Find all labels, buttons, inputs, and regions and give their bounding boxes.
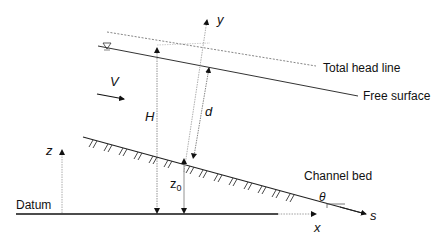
x-axis-label: x bbox=[314, 221, 321, 234]
total-head-arrow-bottom bbox=[154, 208, 160, 214]
total-head-label: H bbox=[145, 110, 154, 123]
channel-bed-label: Channel bed bbox=[304, 170, 372, 182]
y-axis-label: y bbox=[217, 13, 224, 26]
velocity-arrow bbox=[97, 94, 124, 99]
datum-label: Datum bbox=[16, 199, 51, 211]
bed-elevation-arrow-bottom bbox=[181, 208, 187, 214]
bed-elevation-label: z0 bbox=[170, 177, 182, 193]
velocity-label: V bbox=[110, 75, 119, 88]
free-surface-line bbox=[98, 46, 358, 96]
depth-label: d bbox=[205, 105, 212, 118]
channel-bed-hatching bbox=[89, 140, 294, 202]
free-surface-label: Free surface bbox=[363, 90, 430, 102]
diagram-canvas: Total head line Free surface Channel bed… bbox=[0, 0, 441, 235]
depth-arrow-bottom bbox=[191, 153, 197, 159]
z-axis-label: z bbox=[46, 144, 53, 157]
water-surface-icon bbox=[103, 43, 111, 50]
total-head-line bbox=[107, 32, 316, 66]
bed-elevation-subscript: 0 bbox=[177, 183, 182, 193]
s-axis-label: s bbox=[370, 209, 377, 222]
diagram-svg bbox=[0, 0, 441, 235]
angle-theta-label: θ bbox=[319, 191, 326, 203]
y-axis-arrow bbox=[184, 20, 207, 172]
s-axis-arrow bbox=[340, 207, 366, 214]
total-head-line-label: Total head line bbox=[323, 62, 400, 74]
